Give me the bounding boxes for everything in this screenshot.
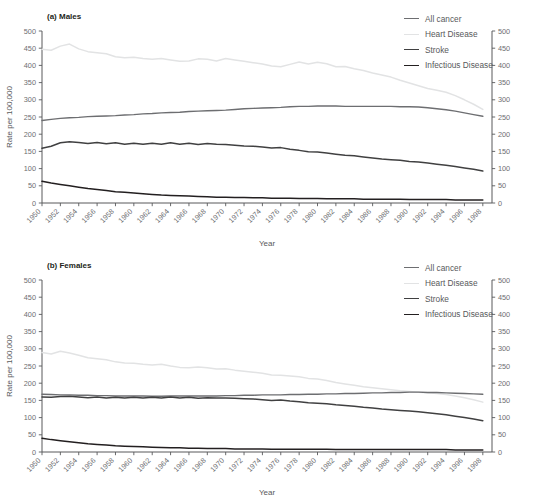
svg-text:0: 0 — [32, 448, 36, 457]
svg-text:1994: 1994 — [429, 207, 447, 225]
svg-text:Year: Year — [259, 239, 276, 248]
svg-text:1982: 1982 — [318, 207, 336, 225]
svg-text:200: 200 — [498, 379, 510, 388]
svg-text:50: 50 — [28, 430, 36, 439]
svg-text:300: 300 — [498, 344, 510, 353]
svg-text:1978: 1978 — [282, 207, 300, 225]
svg-text:1970: 1970 — [208, 207, 226, 225]
panel-males: (a) Males All cancer Heart Disease Strok… — [0, 0, 534, 249]
svg-text:250: 250 — [498, 113, 510, 122]
svg-text:1990: 1990 — [392, 207, 410, 225]
svg-text:100: 100 — [498, 164, 510, 173]
svg-text:150: 150 — [24, 147, 36, 156]
svg-text:1972: 1972 — [227, 456, 245, 474]
svg-text:450: 450 — [24, 293, 36, 302]
plot-b: 0050501001001501502002002502503003003503… — [0, 249, 534, 498]
svg-text:1954: 1954 — [61, 207, 79, 225]
panel-females: (b) Females All cancer Heart Disease Str… — [0, 249, 534, 498]
svg-text:50: 50 — [498, 430, 506, 439]
svg-text:1964: 1964 — [153, 207, 171, 225]
svg-text:500: 500 — [24, 276, 36, 285]
svg-text:1964: 1964 — [153, 456, 171, 474]
svg-text:1954: 1954 — [61, 456, 79, 474]
svg-text:1962: 1962 — [135, 207, 153, 225]
svg-text:1974: 1974 — [245, 456, 263, 474]
svg-text:1994: 1994 — [429, 456, 447, 474]
svg-text:0: 0 — [32, 199, 36, 208]
svg-text:1998: 1998 — [465, 456, 483, 474]
svg-text:100: 100 — [498, 413, 510, 422]
svg-text:200: 200 — [24, 379, 36, 388]
svg-text:300: 300 — [24, 344, 36, 353]
svg-text:1962: 1962 — [135, 456, 153, 474]
svg-text:450: 450 — [498, 44, 510, 53]
svg-text:1952: 1952 — [43, 207, 61, 225]
svg-text:1968: 1968 — [190, 456, 208, 474]
svg-text:1956: 1956 — [80, 456, 98, 474]
svg-text:1960: 1960 — [116, 456, 134, 474]
svg-text:1992: 1992 — [410, 456, 428, 474]
svg-text:1976: 1976 — [263, 207, 281, 225]
svg-text:50: 50 — [498, 181, 506, 190]
svg-text:0: 0 — [498, 199, 502, 208]
svg-text:1970: 1970 — [208, 456, 226, 474]
svg-text:1998: 1998 — [465, 207, 483, 225]
figure-root: (a) Males All cancer Heart Disease Strok… — [0, 0, 534, 498]
svg-text:1976: 1976 — [263, 456, 281, 474]
svg-text:350: 350 — [498, 327, 510, 336]
svg-text:400: 400 — [24, 61, 36, 70]
svg-text:300: 300 — [498, 95, 510, 104]
svg-text:1968: 1968 — [190, 207, 208, 225]
svg-text:500: 500 — [24, 27, 36, 36]
svg-text:1980: 1980 — [300, 207, 318, 225]
svg-text:1958: 1958 — [98, 207, 116, 225]
svg-text:Year: Year — [259, 488, 276, 497]
svg-text:250: 250 — [24, 362, 36, 371]
svg-text:1966: 1966 — [172, 207, 190, 225]
svg-text:250: 250 — [498, 362, 510, 371]
svg-text:1956: 1956 — [80, 207, 98, 225]
svg-text:150: 150 — [498, 147, 510, 156]
svg-text:350: 350 — [498, 78, 510, 87]
svg-text:1952: 1952 — [43, 456, 61, 474]
svg-text:200: 200 — [498, 130, 510, 139]
svg-text:50: 50 — [28, 181, 36, 190]
svg-text:1988: 1988 — [374, 456, 392, 474]
svg-text:1990: 1990 — [392, 456, 410, 474]
svg-text:Rate per 100,000: Rate per 100,000 — [5, 335, 14, 397]
svg-text:1966: 1966 — [172, 456, 190, 474]
svg-text:1986: 1986 — [355, 456, 373, 474]
svg-text:1960: 1960 — [116, 207, 134, 225]
svg-text:1984: 1984 — [337, 207, 355, 225]
svg-text:1980: 1980 — [300, 456, 318, 474]
svg-text:500: 500 — [498, 27, 510, 36]
svg-text:1958: 1958 — [98, 456, 116, 474]
svg-text:1988: 1988 — [374, 207, 392, 225]
svg-text:1992: 1992 — [410, 207, 428, 225]
svg-text:Rate per 100,000: Rate per 100,000 — [5, 86, 14, 148]
svg-text:350: 350 — [24, 78, 36, 87]
svg-text:1950: 1950 — [25, 207, 43, 225]
svg-text:1982: 1982 — [318, 456, 336, 474]
svg-text:400: 400 — [498, 61, 510, 70]
svg-text:500: 500 — [498, 276, 510, 285]
svg-text:150: 150 — [498, 396, 510, 405]
svg-text:150: 150 — [24, 396, 36, 405]
svg-text:1974: 1974 — [245, 207, 263, 225]
svg-text:1950: 1950 — [25, 456, 43, 474]
svg-text:1972: 1972 — [227, 207, 245, 225]
svg-text:350: 350 — [24, 327, 36, 336]
svg-text:450: 450 — [498, 293, 510, 302]
svg-text:250: 250 — [24, 113, 36, 122]
svg-text:400: 400 — [24, 310, 36, 319]
svg-text:300: 300 — [24, 95, 36, 104]
svg-text:1986: 1986 — [355, 207, 373, 225]
svg-text:0: 0 — [498, 448, 502, 457]
svg-text:1978: 1978 — [282, 456, 300, 474]
svg-text:1996: 1996 — [447, 207, 465, 225]
svg-text:100: 100 — [24, 413, 36, 422]
svg-text:1996: 1996 — [447, 456, 465, 474]
plot-a: 0050501001001501502002002502503003003503… — [0, 0, 534, 249]
svg-text:450: 450 — [24, 44, 36, 53]
svg-text:100: 100 — [24, 164, 36, 173]
